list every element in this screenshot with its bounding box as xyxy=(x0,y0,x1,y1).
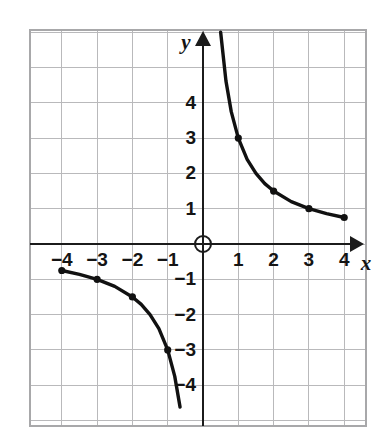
y-tick-label: −2 xyxy=(174,304,196,325)
y-tick-label: 2 xyxy=(185,162,196,183)
y-tick-label: 1 xyxy=(185,198,196,219)
x-tick-label: −3 xyxy=(86,249,108,270)
data-point xyxy=(341,214,348,221)
x-tick-label: 2 xyxy=(268,249,279,270)
y-tick-label: 4 xyxy=(185,92,196,113)
x-tick-label: 3 xyxy=(304,249,315,270)
data-point xyxy=(270,187,277,194)
y-tick-label: −1 xyxy=(174,268,196,289)
graph-container: −4−3−2−11234 4321−1−2−3−4 x y xyxy=(0,0,392,440)
x-tick-label: −4 xyxy=(51,249,73,270)
y-tick-label: 3 xyxy=(185,127,196,148)
x-axis-label: x xyxy=(360,251,372,275)
x-tick-label: −1 xyxy=(157,249,179,270)
x-tick-label: 4 xyxy=(339,249,350,270)
x-tick-label: −2 xyxy=(122,249,144,270)
data-point xyxy=(305,205,312,212)
data-point xyxy=(235,135,242,142)
data-point xyxy=(164,346,171,353)
data-point xyxy=(129,293,136,300)
plot-background xyxy=(30,30,366,426)
coordinate-plane-chart: −4−3−2−11234 4321−1−2−3−4 x y xyxy=(0,0,392,440)
data-point xyxy=(58,267,65,274)
data-point xyxy=(94,276,101,283)
y-tick-label: −3 xyxy=(174,339,196,360)
x-tick-label: 1 xyxy=(233,249,244,270)
